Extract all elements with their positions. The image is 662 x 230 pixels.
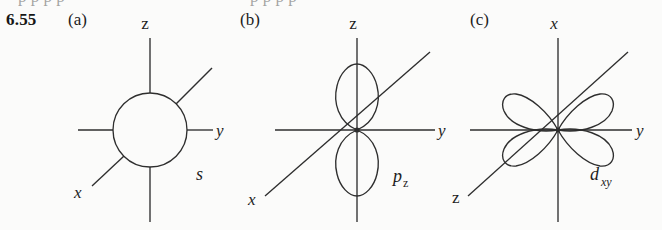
axis-label-x: x: [247, 190, 256, 209]
orbital-subscript-xy: xy: [600, 175, 612, 189]
orbital-label-p: p: [391, 166, 402, 186]
dxy-lobe-lower-left: [503, 129, 558, 166]
axis-line-x-lower: [92, 156, 124, 186]
axis-label-y: y: [634, 121, 644, 140]
s-orbital-circle: [113, 93, 187, 167]
origin-dot: [354, 127, 359, 132]
dxy-lobe-lower-right: [558, 129, 613, 166]
orbital-label-d: d: [590, 164, 600, 184]
axis-label-z: z: [349, 14, 357, 33]
dxy-lobe-upper-right: [558, 94, 613, 131]
axis-line-x-upper: [176, 68, 212, 104]
figure-page: p p p p p p p p 6.55 (a) (b) (c) z y x: [0, 0, 662, 230]
diagram-panel-a: z y x s: [0, 0, 230, 230]
dxy-lobe-upper-left: [503, 94, 558, 131]
orbital-subscript-z: z: [403, 176, 408, 190]
diagram-panel-c: x y z d xy: [410, 0, 662, 230]
axis-label-x: x: [73, 183, 82, 202]
axis-label-x: x: [549, 14, 558, 33]
dxy-orbital-svg: x y z d xy: [410, 0, 662, 230]
s-orbital-svg: z y x s: [0, 0, 230, 230]
axis-label-z: z: [452, 188, 460, 207]
axis-label-z: z: [141, 14, 149, 33]
origin-dot: [556, 128, 561, 133]
orbital-label-s: s: [196, 164, 203, 184]
